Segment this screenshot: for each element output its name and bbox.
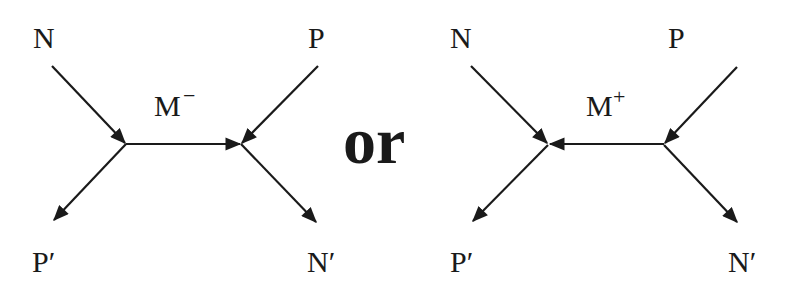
label-n-prime: N′ [307, 245, 335, 278]
exchange-charge-plus: + [613, 84, 625, 109]
incoming-n-arrow [52, 66, 125, 143]
outgoing-p-prime-arrow [54, 144, 126, 220]
right-diagram: N P M + P′ N′ [450, 21, 756, 278]
outgoing-n-prime-arrow [241, 144, 316, 222]
label-p-prime: P′ [32, 245, 55, 278]
left-diagram: N P M − P′ N′ [32, 21, 335, 278]
exchange-label-m-right: M [586, 89, 613, 122]
label-n-in-right: N [450, 21, 472, 54]
connector-or: or [343, 104, 405, 177]
incoming-n-arrow-right [471, 66, 547, 143]
label-n-in: N [33, 21, 55, 54]
exchange-charge-minus: − [183, 83, 195, 108]
label-p-in-right: P [668, 21, 685, 54]
incoming-p-arrow [242, 66, 318, 143]
outgoing-p-prime-arrow-right [473, 145, 548, 221]
incoming-p-arrow-right [665, 67, 737, 143]
exchange-diagram: N P M − P′ N′ or N P M + P′ N′ [0, 0, 804, 287]
outgoing-n-prime-arrow-right [664, 145, 737, 222]
label-p-in: P [308, 21, 325, 54]
label-n-prime-right: N′ [728, 245, 756, 278]
exchange-label-m: M [154, 89, 181, 122]
label-p-prime-right: P′ [450, 245, 473, 278]
